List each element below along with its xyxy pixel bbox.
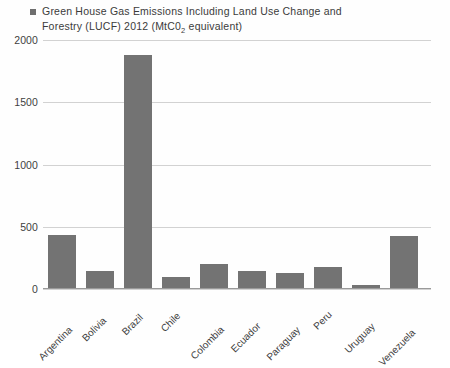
y-axis-tick-label: 500 xyxy=(0,221,38,233)
x-label-slot: Brazil xyxy=(119,292,157,340)
plot-area xyxy=(43,40,431,289)
x-label-slot: Chile xyxy=(157,292,195,340)
x-axis-tick-label-text: Colombia xyxy=(188,324,226,362)
y-axis-tick-label: 0 xyxy=(0,283,38,295)
x-label-slot: Paraguay xyxy=(271,292,309,340)
x-axis-tick-label-text: Brazil xyxy=(120,312,145,337)
gridline xyxy=(43,289,431,290)
bar xyxy=(314,267,342,288)
x-axis-tick-label-text: Ecuador xyxy=(229,320,263,354)
bar-slot xyxy=(309,40,347,288)
bar xyxy=(48,235,76,288)
x-axis-tick-label: Peru xyxy=(326,294,349,317)
bar-slot xyxy=(195,40,233,288)
bar xyxy=(238,271,266,288)
x-label-slot: Colombia xyxy=(195,292,233,340)
chart-legend: Green House Gas Emissions Including Land… xyxy=(30,4,430,38)
bar-slot xyxy=(157,40,195,288)
x-axis-labels: ArgentinaBoliviaBrazilChileColombiaEcuad… xyxy=(43,292,431,340)
bar-slot xyxy=(271,40,309,288)
legend-text-part2: equivalent) xyxy=(185,20,242,32)
x-label-slot: Bolivia xyxy=(81,292,119,340)
x-axis-tick-label-text: Bolivia xyxy=(80,315,109,344)
bar-slot xyxy=(347,40,385,288)
x-axis-tick-label-text: Peru xyxy=(311,309,334,332)
y-axis-tick-label: 1000 xyxy=(0,159,38,171)
x-label-slot: Argentina xyxy=(43,292,81,340)
y-axis-tick-label: 1500 xyxy=(0,96,38,108)
y-axis-labels: 0500100015002000 xyxy=(0,40,38,289)
x-axis-tick-label-text: Uruguay xyxy=(342,321,377,356)
bar xyxy=(162,277,190,288)
bar xyxy=(86,271,114,288)
x-axis-tick-label-text: Argentina xyxy=(36,324,74,362)
x-label-slot: Venezuela xyxy=(385,292,423,340)
x-label-slot: Ecuador xyxy=(233,292,271,340)
bar-series xyxy=(43,40,431,288)
bar-slot xyxy=(119,40,157,288)
bar xyxy=(124,55,152,288)
bar xyxy=(390,236,418,288)
x-label-slot: Peru xyxy=(309,292,347,340)
legend-label: Green House Gas Emissions Including Land… xyxy=(42,4,382,38)
x-axis-line xyxy=(43,288,431,290)
bar xyxy=(200,264,228,288)
x-label-slot: Uruguay xyxy=(347,292,385,340)
bar-slot xyxy=(233,40,271,288)
legend-marker-icon xyxy=(30,9,36,15)
bar-slot xyxy=(43,40,81,288)
bar xyxy=(276,273,304,288)
x-axis-tick-label-text: Chile xyxy=(159,310,183,334)
x-axis-tick-label: Venezuela xyxy=(410,294,450,335)
y-axis-tick-label: 2000 xyxy=(0,34,38,46)
bar-slot xyxy=(81,40,119,288)
bar-slot xyxy=(385,40,423,288)
